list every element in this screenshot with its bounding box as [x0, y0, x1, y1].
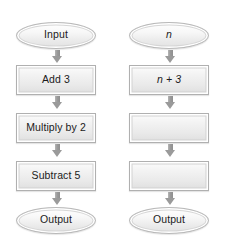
arrow-head — [52, 56, 62, 63]
flowchart-diagram: Input Add 3 Multiply by 2 Subtract 5 — [0, 0, 225, 240]
arrow-down-icon — [52, 96, 63, 109]
expressions-column: n n + 3 Output — [123, 0, 219, 240]
node-label: n — [162, 29, 176, 41]
arrow-head — [165, 102, 175, 109]
arrow-down-icon — [165, 144, 176, 157]
arrow-down-icon — [165, 96, 176, 109]
node-right-end[interactable]: Output — [129, 207, 209, 234]
node-label: Multiply by 2 — [22, 122, 90, 134]
node-left-end[interactable]: Output — [16, 207, 96, 234]
node-label — [165, 176, 173, 177]
operations-column: Input Add 3 Multiply by 2 Subtract 5 — [10, 0, 106, 240]
node-label: Output — [36, 214, 76, 226]
arrow-down-icon — [52, 192, 63, 205]
arrow-down-icon — [165, 192, 176, 205]
node-left-start[interactable]: Input — [16, 22, 96, 49]
node-label: Input — [40, 29, 72, 41]
arrow-head — [52, 102, 62, 109]
node-label: Subtract 5 — [28, 170, 85, 182]
node-right-step-3[interactable] — [129, 161, 209, 191]
arrow-down-icon — [165, 50, 176, 63]
node-label: Add 3 — [38, 74, 74, 86]
node-label: n + 3 — [153, 74, 185, 86]
arrow-head — [52, 198, 62, 205]
node-left-step-2[interactable]: Multiply by 2 — [16, 113, 96, 143]
node-label — [165, 128, 173, 129]
arrow-head — [165, 198, 175, 205]
arrow-head — [165, 56, 175, 63]
node-left-step-1[interactable]: Add 3 — [16, 65, 96, 95]
node-right-step-1[interactable]: n + 3 — [129, 65, 209, 95]
node-right-start[interactable]: n — [129, 22, 209, 49]
arrow-down-icon — [52, 50, 63, 63]
node-label: Output — [149, 214, 189, 226]
node-right-step-2[interactable] — [129, 113, 209, 143]
arrow-down-icon — [52, 144, 63, 157]
arrow-head — [165, 150, 175, 157]
node-left-step-3[interactable]: Subtract 5 — [16, 161, 96, 191]
arrow-head — [52, 150, 62, 157]
